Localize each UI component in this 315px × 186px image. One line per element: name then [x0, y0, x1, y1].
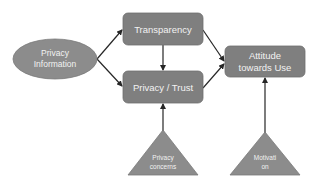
node-privacy-concerns: Privacy concerns [128, 130, 198, 175]
node-label: towards Use [239, 62, 292, 73]
node-label: concerns [150, 163, 177, 170]
node-transparency: Transparency [123, 13, 203, 45]
edge-transparency-to-attitude [203, 30, 224, 61]
node-label: Privacy [41, 48, 70, 58]
node-label: Motivati [254, 154, 276, 161]
node-attitude-towards-use: Attitude towards Use [225, 46, 305, 77]
node-label: Information [34, 59, 77, 69]
node-label: Transparency [134, 24, 192, 35]
diagram-canvas: Privacy Information Transparency Privacy… [0, 0, 315, 186]
node-label: Privacy [152, 154, 174, 162]
node-privacy-information: Privacy Information [13, 39, 97, 79]
edge-info-to-transparency [97, 30, 122, 59]
node-motivation: Motivati on [230, 132, 300, 175]
node-label: on [261, 163, 269, 170]
node-label: Attitude [249, 50, 281, 61]
edge-info-to-privacy-trust [97, 59, 122, 86]
node-label: Privacy / Trust [133, 82, 194, 93]
node-privacy-trust: Privacy / Trust [123, 71, 203, 103]
edge-privacy-trust-to-attitude [203, 64, 224, 88]
